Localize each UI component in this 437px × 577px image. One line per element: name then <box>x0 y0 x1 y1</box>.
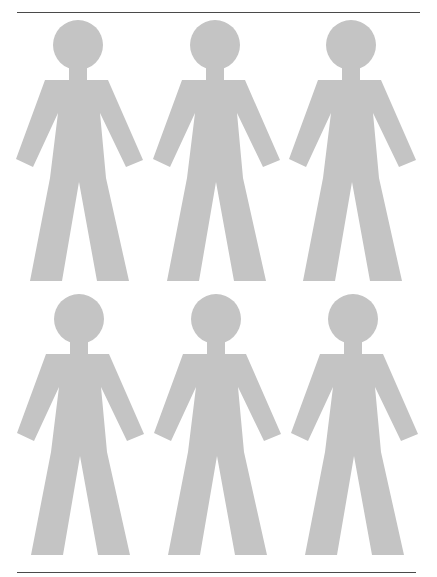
person-head <box>54 294 104 344</box>
person-head <box>191 294 241 344</box>
person-icon <box>291 294 418 555</box>
person-head <box>53 20 103 70</box>
person-body <box>154 340 281 555</box>
person-body <box>16 66 143 281</box>
person-body <box>17 340 144 555</box>
person-icon <box>153 20 280 281</box>
person-icon <box>289 20 416 281</box>
person-head <box>328 294 378 344</box>
person-head <box>190 20 240 70</box>
figures-canvas <box>0 0 437 577</box>
person-icon <box>16 20 143 281</box>
person-icon <box>154 294 281 555</box>
person-body <box>289 66 416 281</box>
bottom-rule <box>17 572 416 573</box>
person-figures-group <box>16 20 418 555</box>
person-body <box>291 340 418 555</box>
person-icon <box>17 294 144 555</box>
person-body <box>153 66 280 281</box>
person-head <box>326 20 376 70</box>
